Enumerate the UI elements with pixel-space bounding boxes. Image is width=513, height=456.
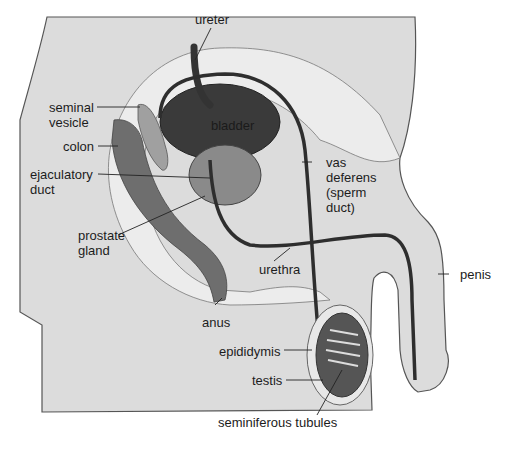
label-epididymis: epididymis bbox=[219, 344, 280, 359]
label-colon: colon bbox=[63, 139, 94, 154]
label-testis: testis bbox=[252, 373, 282, 388]
reproductive-system-diagram: ureter bladder seminal vesicle colon eja… bbox=[0, 0, 513, 456]
label-penis: penis bbox=[460, 267, 491, 282]
label-ejaculatory-duct: ejaculatory duct bbox=[30, 167, 93, 197]
label-seminal-vesicle: seminal vesicle bbox=[49, 100, 94, 130]
label-prostate-gland: prostate gland bbox=[78, 228, 125, 258]
label-vas-deferens: vas deferens (sperm duct) bbox=[326, 155, 377, 215]
label-seminiferous-tubules: seminiferous tubules bbox=[218, 415, 337, 430]
label-anus: anus bbox=[202, 315, 230, 330]
prostate-shape bbox=[189, 145, 261, 205]
label-ureter: ureter bbox=[195, 12, 229, 27]
label-bladder: bladder bbox=[211, 118, 254, 133]
testis-shape bbox=[316, 313, 368, 397]
label-urethra: urethra bbox=[259, 262, 300, 277]
